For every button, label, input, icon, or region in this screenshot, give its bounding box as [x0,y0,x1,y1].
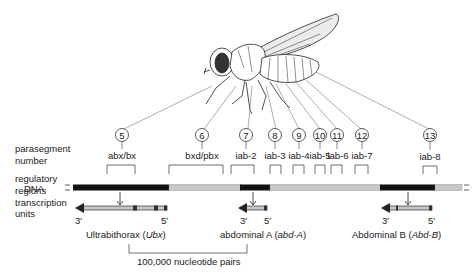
arrow-head [238,203,247,213]
transcription-unit-abd-a: 3′ 5′ abdominal A (abd-A) [220,192,306,240]
gene-label: Abdominal B (Abd-B) [352,229,441,240]
scale-bar: 100,000 nucleotide pairs [129,244,247,267]
parasegment-13: 13 iab-8 [419,129,440,175]
fly-illustration [204,14,339,114]
parasegment-7: 7 iab-2 [231,129,257,175]
region-bracket [107,165,135,174]
regulatory-region-label: bxd/pbx [185,150,219,161]
regulatory-region-label: iab-4 [288,150,309,161]
regulatory-region-label: iab-2 [235,150,256,161]
parasegment-number: 5 [119,130,124,141]
end-5-prime: 5′ [264,215,271,226]
regulatory-region-label: iab-8 [419,151,440,162]
gene-label: abdominal A (abd-A) [220,229,306,240]
parasegment-11: 11 iab-6 [327,129,348,175]
parasegment-12: 12 iab-7 [351,129,372,175]
parasegment-number: 12 [357,130,368,141]
label-dna: DNA [24,183,45,194]
region-bracket [270,165,281,174]
region-bracket [315,165,325,174]
dna-break-left [65,185,70,190]
end-3-prime: 3′ [240,215,247,226]
fly-thorax [230,44,265,80]
parasegment-number: 7 [243,130,248,141]
region-bracket [293,165,304,174]
label-transcription: transcription [15,197,67,208]
regulatory-region-label: iab-7 [351,150,372,161]
parasegment-8: 8 iab-3 [264,129,285,175]
label-parasegment: parasegment [15,143,71,154]
scale-bar-label: 100,000 nucleotide pairs [137,256,241,267]
end-3-prime: 3′ [382,215,389,226]
regulatory-region-label: iab-6 [327,150,348,161]
gene-label: Ultrabithorax (Ubx) [86,229,166,240]
parasegment-number: 11 [332,130,342,141]
parasegment-number: 10 [315,130,326,141]
region-bracket [331,165,342,174]
regulatory-region-label: abx/bx [108,150,136,161]
region-bracket [231,165,254,174]
region-bracket [423,166,437,174]
label-units: units [15,208,35,219]
label-number: number [15,155,47,166]
parasegment-number: 6 [199,130,204,141]
parasegment-number: 9 [296,130,301,141]
transcription-unit-abd-b: 3′ 5′ Abdominal B (Abd-B) [352,192,441,240]
parasegment-number: 8 [272,130,277,141]
region-bracket [169,165,223,174]
parasegment-5: 5 abx/bx [107,129,136,175]
end-3-prime: 3′ [75,215,82,226]
arrow-head [75,203,84,213]
parasegment-number: 13 [425,130,436,141]
region-bracket [355,165,368,174]
fly-eye [215,53,229,73]
dna-bar [65,185,469,191]
transcription-unit-ubx: 3′ 5′ Ultrabithorax (Ubx) [75,192,168,240]
end-5-prime: 5′ [428,215,435,226]
parasegment-9: 9 iab-4 [288,129,309,175]
regulatory-region-label: iab-3 [264,150,285,161]
end-5-prime: 5′ [161,215,168,226]
arrow-head [381,203,390,213]
parasegment-6: 6 bxd/pbx [169,129,223,175]
dna-break-right [464,185,469,190]
row-labels: parasegment number regulatory regions DN… [15,143,71,219]
bithorax-complex-diagram: parasegment number regulatory regions DN… [0,0,475,274]
